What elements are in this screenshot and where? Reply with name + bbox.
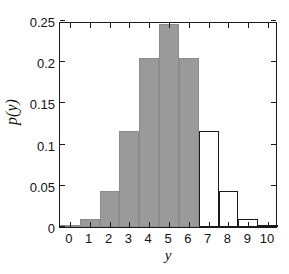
x-tick-mark — [70, 222, 71, 227]
x-tick-mark — [268, 222, 269, 227]
x-tick-mark-top — [70, 23, 71, 28]
x-tick-mark-top — [169, 23, 170, 28]
x-tick-label-1: 1 — [85, 231, 92, 246]
x-tick-label-3: 3 — [125, 231, 132, 246]
y-axis-title: p(y) — [3, 82, 21, 142]
y-tick-mark-right — [271, 144, 276, 145]
y-tick-mark — [60, 226, 65, 227]
plot-area — [59, 22, 277, 228]
x-tick-mark-top — [149, 23, 150, 28]
y-tick-mark — [60, 20, 65, 21]
y-tick-label-0.1: 0.1 — [37, 138, 55, 153]
x-tick-label-2: 2 — [105, 231, 112, 246]
x-tick-mark — [129, 222, 130, 227]
x-tick-mark-top — [189, 23, 190, 28]
x-tick-mark — [169, 222, 170, 227]
x-tick-mark — [110, 222, 111, 227]
y-tick-mark-right — [271, 61, 276, 62]
y-tick-mark-right — [271, 226, 276, 227]
x-tick-mark — [228, 222, 229, 227]
x-tick-mark — [90, 222, 91, 227]
x-tick-mark-top — [248, 23, 249, 28]
x-tick-mark-top — [228, 23, 229, 28]
y-tick-mark — [60, 144, 65, 145]
y-tick-label-0.2: 0.2 — [37, 56, 55, 71]
x-tick-label-8: 8 — [224, 231, 231, 246]
x-tick-label-0: 0 — [65, 231, 72, 246]
y-tick-mark — [60, 102, 65, 103]
x-tick-mark — [149, 222, 150, 227]
bar-3 — [119, 131, 139, 227]
y-tick-mark — [60, 185, 65, 186]
figure-canvas: 00.050.10.150.20.25 012345678910 p(y) y — [0, 0, 289, 274]
x-tick-label-4: 4 — [145, 231, 152, 246]
x-tick-label-9: 9 — [244, 231, 251, 246]
x-tick-mark — [248, 222, 249, 227]
x-axis-title: y — [59, 247, 277, 264]
bar-7 — [199, 131, 219, 227]
bar-6 — [179, 58, 199, 227]
y-tick-label-0.25: 0.25 — [30, 15, 55, 30]
x-tick-mark-top — [268, 23, 269, 28]
x-tick-mark — [189, 222, 190, 227]
x-tick-mark-top — [90, 23, 91, 28]
y-tick-label-0: 0 — [48, 221, 55, 236]
y-tick-mark — [60, 61, 65, 62]
bar-4 — [139, 58, 159, 227]
bars-layer — [60, 23, 276, 227]
x-tick-label-10: 10 — [260, 231, 274, 246]
x-tick-label-7: 7 — [204, 231, 211, 246]
y-tick-label-0.15: 0.15 — [30, 97, 55, 112]
x-tick-mark-top — [129, 23, 130, 28]
y-tick-mark-right — [271, 185, 276, 186]
y-tick-mark-right — [271, 102, 276, 103]
x-tick-label-5: 5 — [164, 231, 171, 246]
bar-5 — [159, 24, 179, 227]
y-tick-mark-right — [271, 20, 276, 21]
x-tick-mark-top — [110, 23, 111, 28]
x-tick-label-6: 6 — [184, 231, 191, 246]
x-tick-mark — [209, 222, 210, 227]
x-tick-mark-top — [209, 23, 210, 28]
y-tick-label-0.05: 0.05 — [30, 179, 55, 194]
